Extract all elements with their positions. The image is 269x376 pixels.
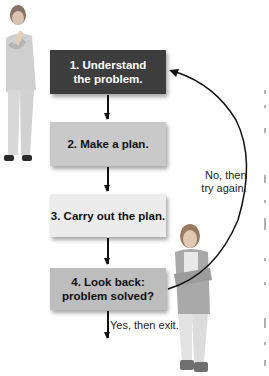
loop-label: No, then try again.: [205, 169, 247, 195]
page-edge-marks: [262, 0, 269, 376]
loop-label-line1: No, then: [205, 169, 247, 182]
loop-label-line2: try again.: [195, 182, 247, 195]
